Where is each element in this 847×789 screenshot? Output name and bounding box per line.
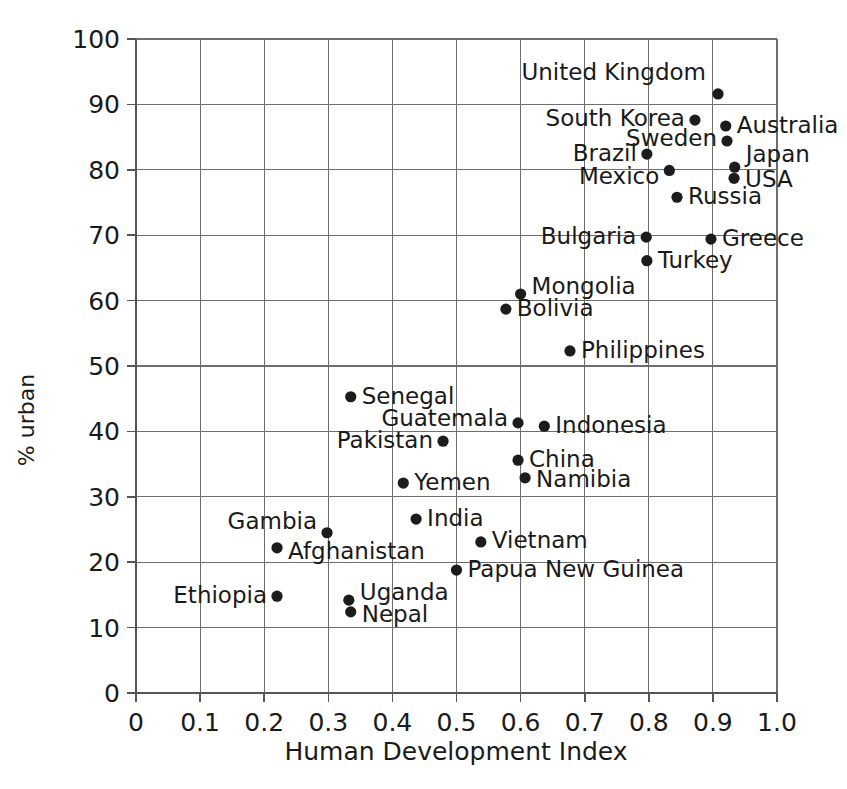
data-point[interactable]	[641, 255, 652, 266]
data-point[interactable]	[451, 564, 462, 575]
data-point-label: Australia	[737, 112, 839, 138]
y-axis-title: % urban	[14, 374, 39, 466]
data-point-label: Mexico	[579, 163, 659, 189]
x-tick-label: 0.8	[629, 708, 669, 737]
data-point-label: Gambia	[228, 508, 317, 534]
data-point-label: Afghanistan	[288, 538, 425, 564]
data-point[interactable]	[641, 232, 652, 243]
data-point[interactable]	[343, 595, 354, 606]
y-tick-label: 80	[88, 156, 120, 185]
data-point-label: Pakistan	[337, 427, 433, 453]
data-point[interactable]	[437, 436, 448, 447]
data-point[interactable]	[712, 88, 723, 99]
y-tick-label: 60	[88, 287, 120, 316]
x-axis-title: Human Development Index	[284, 737, 627, 766]
data-point[interactable]	[729, 162, 740, 173]
x-tick-label: 0.5	[437, 708, 477, 737]
data-point[interactable]	[321, 527, 332, 538]
data-point[interactable]	[512, 417, 523, 428]
data-point[interactable]	[664, 165, 675, 176]
data-point[interactable]	[519, 472, 530, 483]
data-point[interactable]	[512, 455, 523, 466]
scatter-chart: 010203040506070809010000.10.20.30.40.50.…	[0, 0, 847, 789]
data-point[interactable]	[720, 120, 731, 131]
data-point[interactable]	[539, 421, 550, 432]
y-tick-label: 100	[72, 25, 120, 54]
data-point[interactable]	[705, 234, 716, 245]
data-point-label: Russia	[688, 183, 762, 209]
data-point[interactable]	[345, 391, 356, 402]
y-tick-label: 20	[88, 548, 120, 577]
data-point[interactable]	[271, 591, 282, 602]
y-tick-label: 50	[88, 352, 120, 381]
x-tick-label: 0.7	[565, 708, 605, 737]
data-point-label: Papua New Guinea	[468, 556, 685, 582]
x-tick-label: 0.9	[693, 708, 733, 737]
x-tick-label: 0.2	[244, 708, 284, 737]
x-tick-label: 1.0	[757, 708, 797, 737]
x-tick-label: 0	[128, 708, 144, 737]
x-tick-label: 0.6	[501, 708, 541, 737]
plot-area: 010203040506070809010000.10.20.30.40.50.…	[0, 0, 847, 789]
data-point[interactable]	[271, 542, 282, 553]
data-point[interactable]	[721, 135, 732, 146]
data-point[interactable]	[564, 345, 575, 356]
data-point-label: India	[427, 505, 483, 531]
y-tick-label: 0	[104, 679, 120, 708]
data-point[interactable]	[671, 192, 682, 203]
data-point-label: Namibia	[536, 466, 631, 492]
data-point[interactable]	[500, 304, 511, 315]
x-tick-label: 0.4	[373, 708, 413, 737]
data-point-label: Brazil	[573, 140, 637, 166]
data-point[interactable]	[689, 114, 700, 125]
data-point-label: Yemen	[413, 469, 490, 495]
data-point-label: Indonesia	[555, 412, 666, 438]
x-tick-label: 0.3	[308, 708, 348, 737]
data-point-label: Philippines	[581, 337, 705, 363]
y-tick-label: 10	[88, 614, 120, 643]
data-point-label: United Kingdom	[521, 59, 706, 85]
data-point-label: Sweden	[626, 125, 717, 151]
data-point-label: Turkey	[657, 247, 733, 273]
data-point-label: Japan	[744, 141, 810, 167]
data-point[interactable]	[728, 173, 739, 184]
y-tick-label: 40	[88, 417, 120, 446]
data-point-label: Greece	[722, 225, 804, 251]
y-tick-label: 90	[88, 90, 120, 119]
data-point-label: Nepal	[362, 601, 428, 627]
data-point-label: Vietnam	[492, 527, 588, 553]
data-point[interactable]	[411, 513, 422, 524]
data-point[interactable]	[475, 536, 486, 547]
data-point[interactable]	[398, 477, 409, 488]
data-point-label: Ethiopia	[173, 582, 267, 608]
data-point-labels: United KingdomSouth KoreaAustraliaSweden…	[173, 59, 838, 627]
data-point-label: Bolivia	[517, 295, 594, 321]
y-tick-label: 30	[88, 483, 120, 512]
data-point-label: Bulgaria	[541, 223, 636, 249]
data-point[interactable]	[345, 606, 356, 617]
x-tick-label: 0.1	[180, 708, 220, 737]
y-tick-label: 70	[88, 221, 120, 250]
